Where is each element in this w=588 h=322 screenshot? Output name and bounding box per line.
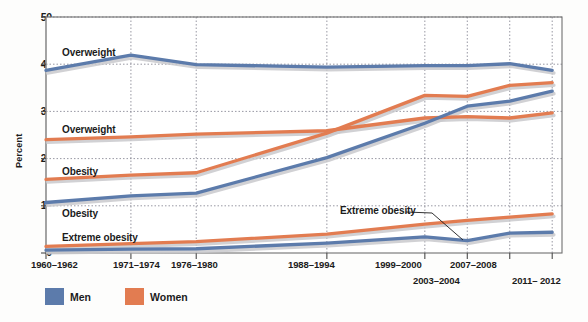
x-tick-1999-2000: 1999–2000 (375, 259, 422, 270)
x-tick-1971-1974: 1971–1974 (113, 259, 160, 270)
x-tick-1988-1994: 1988–1994 (288, 259, 335, 270)
x-tick-2007-2008: 2007–2008 (450, 259, 497, 270)
legend-swatch-women (125, 288, 144, 305)
annotation-obesity-women: Obesity (62, 166, 98, 177)
legend-label-women: Women (150, 291, 188, 303)
legend-label-men: Men (70, 291, 91, 303)
annotation-overweight-women: Overweight (62, 124, 115, 135)
annotation-extreme-obesity-left: Extreme obesity (62, 232, 138, 243)
x-tick-1960-1962: 1960–1962 (31, 259, 78, 270)
legend-swatch-men (45, 288, 64, 305)
chart-figure: Percent 50 40 30 20 10 0 1960–1962 1971–… (0, 0, 588, 322)
annotation-extreme-obesity-right: Extreme obesity (340, 205, 416, 216)
x-tick-1976-1980: 1976–1980 (171, 259, 218, 270)
annotation-overweight-men: Overweight (62, 47, 115, 58)
legend: Men Women (45, 288, 188, 305)
annotation-obesity-men: Obesity (62, 208, 98, 219)
x-tick-2011-2012: 2011– 2012 (512, 275, 561, 286)
x-tick-2003-2004: 2003–2004 (413, 275, 460, 286)
